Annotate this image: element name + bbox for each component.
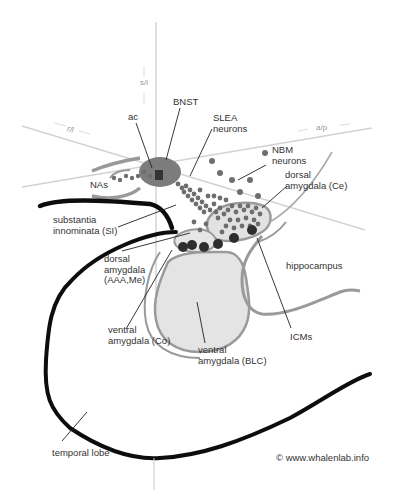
label-icms: ICMs xyxy=(290,332,312,343)
axis-label-si: s/i xyxy=(140,78,148,87)
credit-text: © www.whalenlab.info xyxy=(276,453,369,464)
label-nas: NAs xyxy=(90,180,108,191)
label-slea-neurons: SLEA neurons xyxy=(213,113,247,134)
label-dorsal-amygdala-ce: dorsal amygdala (Ce) xyxy=(285,170,347,191)
axis-arrows xyxy=(54,66,350,134)
label-ventral-amygdala-co: ventral amygdala (Co) xyxy=(108,325,170,346)
hippocampus-outline xyxy=(242,236,360,314)
label-ventral-amygdala-blc: ventral amygdala (BLC) xyxy=(198,345,267,366)
axis-label-ap: a/p xyxy=(316,123,327,132)
label-bnst: BNST xyxy=(173,97,198,108)
ac-marker xyxy=(155,170,163,180)
nbm-neurons xyxy=(209,150,268,199)
label-temporal-lobe: temporal lobe xyxy=(52,448,110,459)
amygdala-diagram xyxy=(0,0,399,501)
label-dorsal-amygdala-aaa-me: dorsal amygdala (AAA,Me) xyxy=(104,254,145,286)
label-hippocampus: hippocampus xyxy=(286,261,343,272)
label-ac: ac xyxy=(128,112,138,123)
label-nbm-neurons: NBM neurons xyxy=(272,145,306,166)
label-substantia-innominata: substantia innominata (SI) xyxy=(53,215,117,236)
